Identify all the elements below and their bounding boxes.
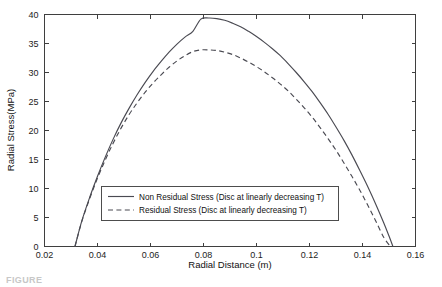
legend-label-residual-stress: Residual Stress (Disc at linearly decrea…	[139, 206, 307, 215]
y-tick-label: 40	[28, 10, 38, 20]
y-tick-label: 10	[28, 184, 38, 194]
x-tick-label: 0.06	[142, 250, 160, 260]
x-tick-label: 0.04	[89, 250, 107, 260]
legend-label-non-residual-stress: Non Residual Stress (Disc at linearly de…	[139, 193, 324, 202]
figure-caption-fragment: FIGURE	[6, 276, 156, 285]
y-tick-label: 25	[28, 97, 38, 107]
x-tick-label: 0.12	[301, 250, 319, 260]
x-axis-ticks: 0.020.040.060.080.10.120.140.16	[36, 15, 425, 260]
chart-canvas: 0510152025303540 0.020.040.060.080.10.12…	[0, 0, 442, 287]
x-tick-label: 0.08	[195, 250, 213, 260]
caption-text: FIGURE	[6, 276, 156, 285]
y-tick-label: 15	[28, 155, 38, 165]
chart-legend[interactable]: Non Residual Stress (Disc at linearly de…	[102, 187, 339, 221]
x-tick-label: 0.16	[407, 250, 425, 260]
x-tick-label: 0.02	[36, 250, 54, 260]
y-tick-label: 5	[33, 213, 38, 223]
x-tick-label: 0.14	[354, 250, 372, 260]
y-tick-label: 30	[28, 68, 38, 78]
x-axis-title: Radial Distance (m)	[188, 259, 271, 270]
y-tick-label: 35	[28, 39, 38, 49]
y-tick-label: 20	[28, 126, 38, 136]
y-axis-title: Radial Stress(MPa)	[5, 89, 16, 171]
x-tick-label: 0.1	[250, 250, 263, 260]
figure-container: 0510152025303540 0.020.040.060.080.10.12…	[0, 0, 442, 287]
